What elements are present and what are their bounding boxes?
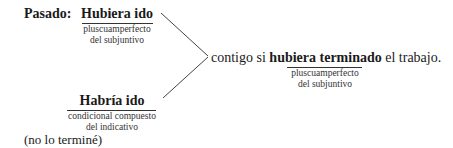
sentence-highlight: hubiera terminado	[269, 50, 381, 65]
bottom-verb-note-line1: condicional compuesto	[62, 111, 162, 122]
sentence-note-line2: del subjuntivo	[285, 79, 365, 90]
tense-label: Pasado:	[24, 6, 71, 22]
sentence-before: contigo si	[211, 50, 269, 65]
top-verb-note: pluscuamperfecto del subjuntivo	[80, 24, 154, 46]
sentence-after: el trabajo.	[382, 50, 441, 65]
sentence-note: pluscuamperfecto del subjuntivo	[285, 68, 365, 90]
top-verb-note-line2: del subjuntivo	[80, 35, 154, 46]
top-verb-note-line1: pluscuamperfecto	[80, 24, 154, 35]
bottom-verb-note: condicional compuesto del indicativo	[62, 111, 162, 133]
top-verb: Hubiera ido	[80, 6, 154, 22]
bottom-verb: Habría ido	[66, 93, 158, 109]
sentence-note-line1: pluscuamperfecto	[285, 68, 365, 79]
example-sentence: contigo si hubiera terminado el trabajo.	[211, 50, 441, 66]
footnote: (no lo terminé)	[24, 132, 102, 148]
